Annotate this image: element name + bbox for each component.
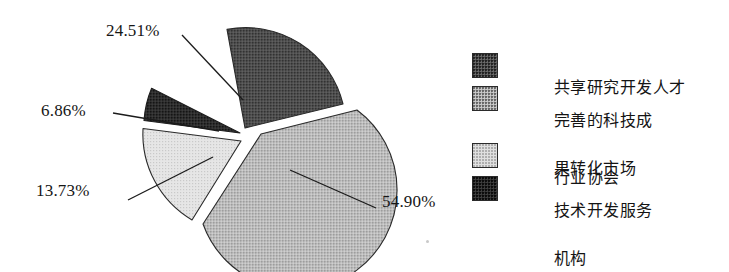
chart-legend: 共享研究开发人才 完善的科技成 果转化市场 行业协会 技术开发服务 机构	[470, 52, 729, 252]
legend-swatch-near-black	[472, 176, 498, 201]
pie-slice-24-51[interactable]	[227, 28, 343, 128]
scan-artifact-speck	[426, 240, 429, 243]
legend-swatch-light-gray	[472, 143, 498, 168]
legend-swatch-medium-gray	[472, 86, 498, 111]
legend-swatch-dark-gray	[472, 53, 498, 78]
pie-chart-figure: 24.51% 6.86% 13.73% 54.90% 共享研究开发人才 完善的科…	[0, 0, 729, 272]
chart-plot-area: 24.51% 6.86% 13.73% 54.90%	[0, 0, 470, 272]
slice-value-label-6-86: 6.86%	[41, 101, 86, 121]
legend-item-tech-dev-service-org[interactable]: 技术开发服务 机构	[472, 175, 653, 272]
legend-label-line1: 完善的科技成	[554, 111, 653, 130]
slice-value-label-13-73: 13.73%	[36, 181, 90, 201]
legend-label-line2: 机构	[554, 249, 587, 268]
legend-label-line1: 技术开发服务	[554, 201, 653, 220]
slice-value-label-24-51: 24.51%	[106, 21, 160, 41]
pie-slice-54-90[interactable]	[203, 110, 397, 272]
slice-value-label-54-90: 54.90%	[382, 192, 436, 212]
pie-chart-svg	[0, 0, 470, 272]
